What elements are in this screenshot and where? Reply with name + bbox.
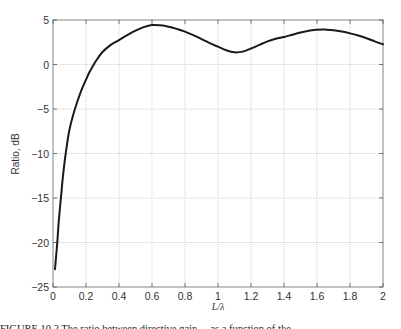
x-tick-label: 0.2 [79, 290, 94, 302]
x-tick-label: 1.4 [277, 290, 292, 302]
x-tick-label: 0.4 [112, 290, 127, 302]
y-axis-label: Ratio, dB [10, 133, 21, 174]
y-tick-label: 5 [43, 14, 49, 26]
x-tick-label: 0 [50, 290, 56, 302]
ratio-curve [55, 25, 383, 269]
x-tick-label: 2 [380, 290, 386, 302]
y-tick-label: 0 [43, 59, 49, 71]
x-axis-label: L/λ [211, 301, 225, 312]
y-tick-label: −5 [37, 103, 49, 115]
y-tick-label: −20 [31, 237, 49, 249]
y-tick-label: −10 [31, 148, 49, 160]
y-tick-label: −25 [31, 281, 49, 293]
y-axis-tick-labels: 50−5−10−15−20−25 [31, 14, 49, 293]
x-tick-label: 1.8 [343, 290, 358, 302]
y-tick-label: −15 [31, 192, 49, 204]
x-tick-label: 1.2 [244, 290, 259, 302]
x-tick-label: 0.6 [145, 290, 160, 302]
x-tick-label: 1.6 [310, 290, 325, 302]
x-tick-label: 0.8 [178, 290, 193, 302]
figure-caption: FIGURE 10.2 The ratio between directive … [0, 318, 401, 329]
grid-lines [53, 20, 383, 287]
line-chart: 00.20.40.60.811.21.41.61.82 50−5−10−15−2… [0, 0, 401, 329]
